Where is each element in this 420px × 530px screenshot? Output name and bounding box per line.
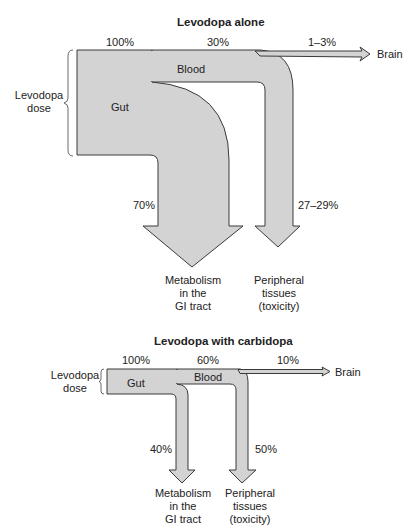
dose-label-2: Levodopa dose — [50, 369, 100, 395]
dose-percent-2: 100% — [122, 354, 150, 367]
brain-label-2: Brain — [335, 366, 361, 379]
blood-flow-shape-2 — [177, 369, 256, 483]
blood-percent-2: 60% — [197, 354, 219, 367]
brain-percent: 1–3% — [308, 36, 336, 49]
dose-percent: 100% — [106, 36, 134, 49]
dose-label: Levodopa dose — [14, 89, 64, 115]
blood-percent: 30% — [207, 36, 229, 49]
metabolism-label-2: Metabolism in the GI tract — [150, 487, 216, 526]
brain-label: Brain — [377, 48, 403, 61]
peripheral-label: Peripheral tissues (toxicity) — [251, 274, 307, 313]
gut-metabolism-percent-2: 40% — [150, 443, 172, 456]
gut-label: Gut — [111, 101, 129, 114]
peripheral-percent: 27–29% — [298, 199, 338, 212]
dose-brace-icon — [64, 50, 73, 156]
peripheral-percent-2: 50% — [255, 443, 277, 456]
blood-label: Blood — [177, 63, 205, 76]
gut-flow-shape — [77, 50, 243, 267]
brain-percent-2: 10% — [277, 354, 299, 367]
gut-flow-shape-2 — [107, 369, 195, 483]
gut-label-2: Gut — [127, 377, 145, 390]
diagram-title-2: Levodopa with carbidopa — [154, 335, 293, 348]
peripheral-label-2: Peripheral tissues (toxicity) — [222, 487, 278, 526]
metabolism-label: Metabolism in the GI tract — [160, 274, 226, 313]
flow-diagram-canvas — [0, 0, 420, 530]
diagram-title: Levodopa alone — [177, 16, 265, 29]
blood-label-2: Blood — [194, 371, 222, 384]
gut-metabolism-percent: 70% — [133, 199, 155, 212]
brain-arrow-shape-2 — [238, 367, 330, 376]
